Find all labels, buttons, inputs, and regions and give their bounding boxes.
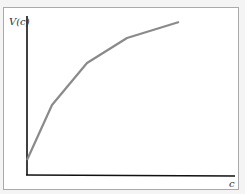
x-axis-label: c: [229, 178, 235, 189]
x-axis: [26, 175, 235, 176]
chart-plot: [0, 0, 245, 194]
series-line: [27, 22, 179, 160]
y-axis-label: V(c): [9, 16, 30, 27]
